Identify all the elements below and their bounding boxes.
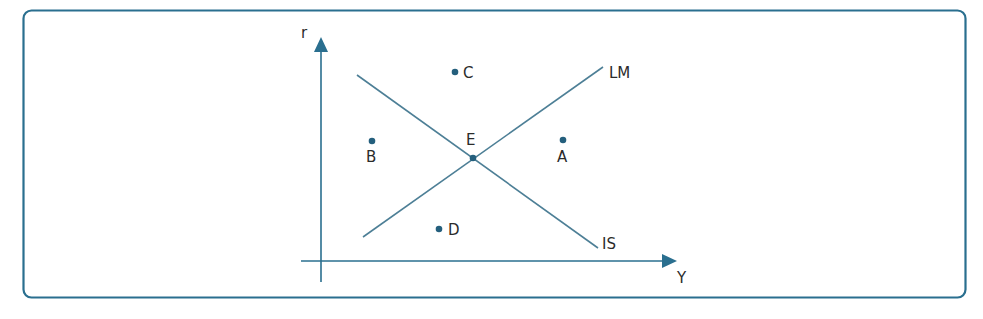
point-a-label: A <box>557 148 568 166</box>
diagram-frame <box>24 11 966 298</box>
y-axis-label: Y <box>676 269 687 287</box>
islm-diagram: r Y IS LM E C B A D <box>0 0 983 319</box>
point-c-dot <box>452 69 459 76</box>
point-c-label: C <box>463 64 473 82</box>
point-e-label: E <box>466 131 475 149</box>
point-e-dot <box>470 155 477 162</box>
r-axis-label: r <box>301 24 308 42</box>
point-d-label: D <box>448 221 460 239</box>
point-a-dot <box>560 137 567 144</box>
point-d-dot <box>436 226 443 233</box>
point-b-label: B <box>366 148 376 166</box>
is-curve-label: IS <box>602 235 616 253</box>
lm-curve-label: LM <box>609 64 630 82</box>
point-b-dot <box>369 138 376 145</box>
